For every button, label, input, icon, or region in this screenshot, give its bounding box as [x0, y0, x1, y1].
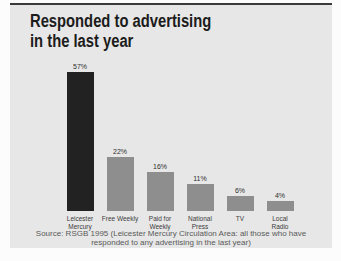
value-label-leicester-mercury: 57% [73, 63, 87, 70]
x-tick-leicester-mercury: Leicester Mercury [60, 215, 100, 230]
bar-local-radio [267, 201, 294, 211]
bar-group-paid-for-weekly: 16% [140, 59, 180, 211]
source-note: Source: RSGB 1995 (Leicester Mercury Cir… [10, 229, 332, 247]
chart-panel: Responded to advertising in the last yea… [10, 3, 332, 248]
x-axis-labels: Leicester Mercury Free Weekly Paid for W… [60, 215, 300, 230]
x-tick-local-radio: Local Radio [260, 215, 300, 230]
x-tick-national-press: National Press [180, 215, 220, 230]
x-tick-free-weekly: Free Weekly [100, 215, 140, 230]
bar-group-tv: 6% [220, 59, 260, 211]
value-label-local-radio: 4% [275, 192, 285, 199]
x-tick-paid-for-weekly: Paid for Weekly [140, 215, 180, 230]
x-tick-tv: TV [220, 215, 260, 230]
bar-group-local-radio: 4% [260, 59, 300, 211]
page: { "page": { "background": "#fcfcfc", "pa… [0, 0, 341, 261]
bar-tv [227, 196, 254, 211]
bar-group-leicester-mercury: 57% [60, 59, 100, 211]
chart-title: Responded to advertising in the last yea… [30, 11, 211, 51]
value-label-paid-for-weekly: 16% [153, 163, 167, 170]
bar-paid-for-weekly [147, 172, 174, 211]
bar-leicester-mercury [67, 72, 94, 211]
bars-area: 57% 22% 16% 11% 6% 4% [60, 59, 300, 211]
value-label-national-press: 11% [193, 175, 207, 182]
bar-national-press [187, 184, 214, 211]
value-label-free-weekly: 22% [113, 148, 127, 155]
bar-group-national-press: 11% [180, 59, 220, 211]
value-label-tv: 6% [235, 187, 245, 194]
bar-free-weekly [107, 157, 134, 211]
bar-group-free-weekly: 22% [100, 59, 140, 211]
